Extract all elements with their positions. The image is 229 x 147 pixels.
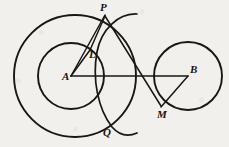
segment-A-L xyxy=(71,50,90,76)
segments-group xyxy=(71,15,188,107)
point-label-B: B xyxy=(189,63,197,75)
segment-A-P xyxy=(71,15,105,76)
point-label-A: A xyxy=(61,70,69,82)
point-label-P: P xyxy=(100,1,107,13)
point-labels-group: P L A B M Q xyxy=(61,1,197,138)
point-label-Q: Q xyxy=(103,126,111,138)
geometry-figure: P L A B M Q xyxy=(0,0,229,147)
geometry-canvas: P L A B M Q xyxy=(0,0,229,147)
point-label-M: M xyxy=(156,108,168,120)
segment-B-M xyxy=(161,76,188,107)
point-label-L: L xyxy=(88,48,96,60)
segment-L-P xyxy=(90,16,105,50)
